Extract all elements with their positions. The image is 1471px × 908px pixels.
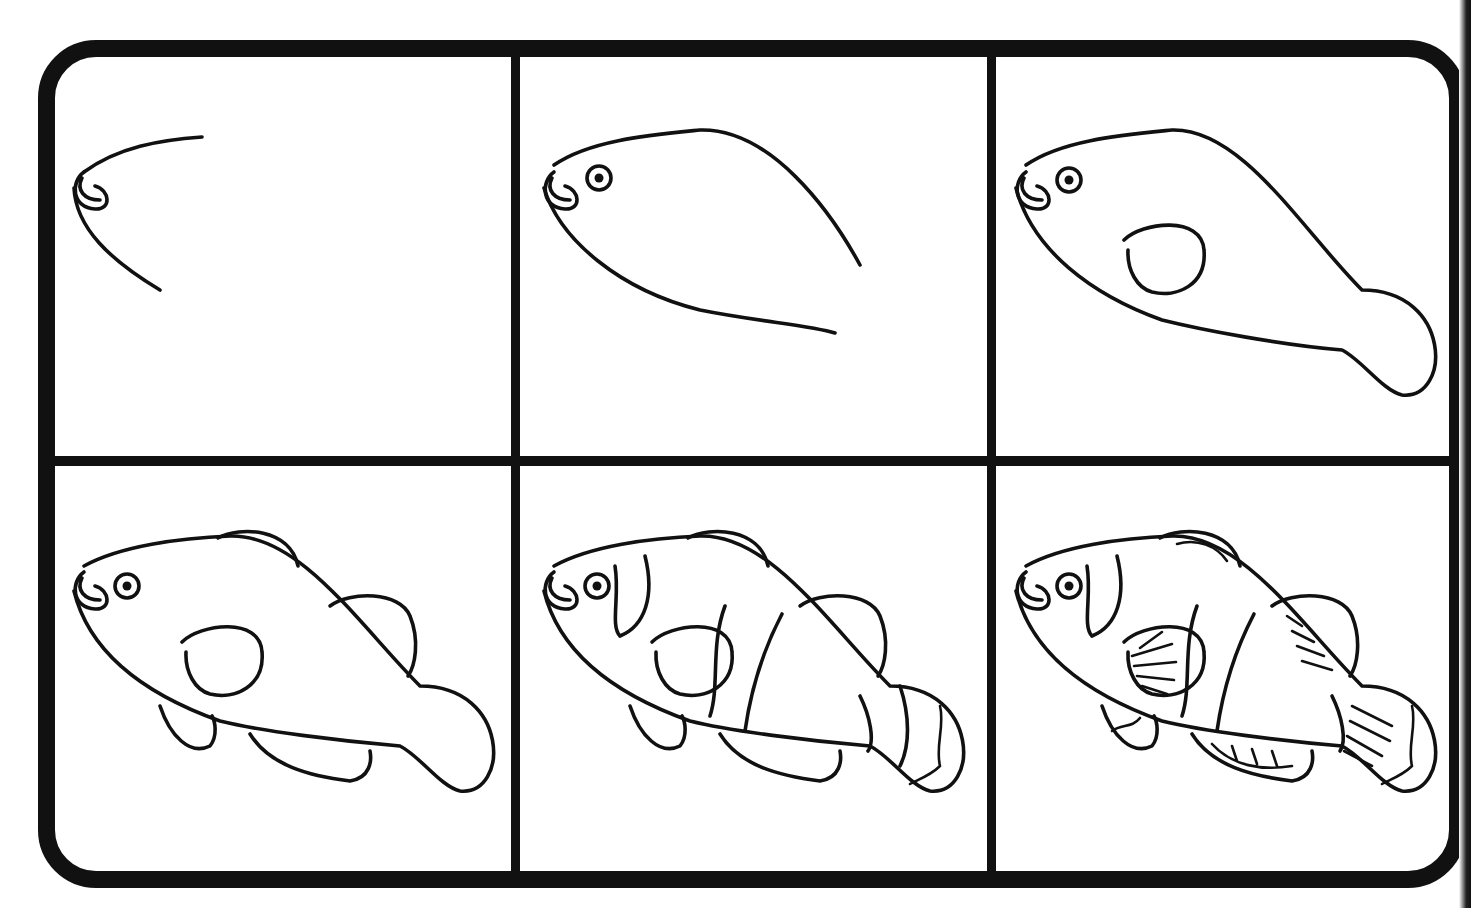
fish-head-sketch	[0, 0, 520, 460]
fish-fins-sketch	[0, 466, 520, 886]
fish-stripes-sketch	[470, 466, 990, 886]
eye-icon	[595, 174, 604, 183]
fish-body-sketch	[470, 0, 990, 460]
fish-tail-sketch	[942, 0, 1471, 460]
fish-final-sketch	[942, 466, 1471, 886]
